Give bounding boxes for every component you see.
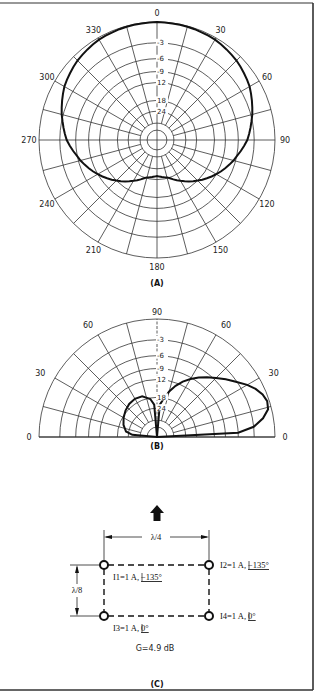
angle-label-top: 90 [152, 308, 162, 317]
ring-label: -6 [157, 55, 165, 63]
ring-label: -9 [157, 365, 164, 373]
angle-label: 0 [154, 9, 159, 18]
caption-b: (B) [150, 442, 163, 451]
azimuth-polar-plot: 0306090120150180210240270300330 -3-6-912… [21, 9, 290, 288]
height-dimension-label: λ/8 [72, 585, 83, 595]
ring-label: -9 [157, 68, 164, 76]
ring-label: -6 [157, 352, 165, 360]
angle-labels-a: 0306090120150180210240270300330 [21, 9, 290, 272]
angle-label: 150 [213, 246, 228, 255]
element-i3-label: I3=1 A,0° [113, 623, 149, 633]
caption-a: (A) [150, 279, 164, 288]
angle-label: 30 [215, 26, 225, 35]
angle-label-right: 30 [269, 369, 279, 378]
ring-label: 12 [157, 376, 166, 384]
element-i3-icon [100, 612, 108, 620]
antenna-pattern-figure: 0306090120150180210240270300330 -3-6-912… [0, 0, 316, 698]
element-i1-label: I1=1 A,−135° [113, 572, 162, 582]
angle-label: 240 [39, 200, 54, 209]
ring-label: 18 [157, 97, 166, 105]
angle-label: 60 [262, 73, 272, 82]
angle-label: 180 [149, 263, 164, 272]
angle-label-left: 0 [26, 433, 31, 442]
gain-label: G=4.9 dB [136, 644, 175, 653]
element-i4-label: I4=1 A,0° [220, 611, 256, 621]
angle-label: 300 [39, 73, 54, 82]
ring-label: 24 [157, 405, 166, 413]
angle-label-left: 30 [35, 369, 45, 378]
forward-lobe-curve [157, 377, 268, 437]
ring-label: -3 [157, 336, 164, 344]
angle-label: 330 [86, 26, 101, 35]
ring-label: -3 [157, 39, 164, 47]
angle-label: 90 [280, 136, 290, 145]
angle-label: 120 [259, 200, 274, 209]
figure-frame [0, 3, 313, 690]
angle-label: 210 [86, 246, 101, 255]
element-i1-icon [100, 561, 108, 569]
caption-c: (C) [150, 680, 163, 689]
angle-label-right: 0 [282, 433, 287, 442]
ring-label: 18 [157, 394, 166, 402]
element-i2-icon [205, 561, 213, 569]
ring-label: 24 [157, 108, 166, 116]
elevation-polar-plot: 003030606090 -3-6-9121824 (B) [26, 308, 287, 451]
array-layout-diagram: λ/4 λ/8 I1=1 A,−135° I2=1 A,−135° I3=1 A… [70, 505, 269, 689]
ring-label: 12 [157, 79, 166, 87]
angle-label-left: 60 [83, 321, 93, 330]
element-i4-icon [205, 612, 213, 620]
angle-label-right: 60 [221, 321, 231, 330]
up-arrow-icon [150, 505, 164, 521]
element-i2-label: I2=1 A,−135° [220, 560, 269, 570]
angle-label: 270 [21, 136, 36, 145]
width-dimension-label: λ/4 [151, 532, 162, 542]
